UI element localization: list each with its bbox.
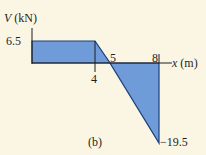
y-value-top: 6.5 bbox=[6, 35, 21, 47]
negative-shear-region bbox=[110, 63, 159, 143]
positive-shear-region bbox=[32, 41, 110, 63]
y-axis-label: V (kN) bbox=[4, 12, 37, 24]
x-tick-4: 4 bbox=[91, 73, 97, 85]
figure-caption: (b) bbox=[88, 136, 102, 148]
y-value-bottom: −19.5 bbox=[160, 136, 188, 148]
y-axis-unit: (kN) bbox=[14, 11, 37, 25]
x-axis-label: x (m) bbox=[172, 57, 198, 69]
x-tick-5: 5 bbox=[110, 52, 116, 64]
x-tick-8: 8 bbox=[152, 52, 158, 64]
x-axis-unit: (m) bbox=[180, 56, 197, 70]
x-axis-variable: x bbox=[172, 56, 177, 70]
y-axis-variable: V bbox=[4, 11, 11, 25]
